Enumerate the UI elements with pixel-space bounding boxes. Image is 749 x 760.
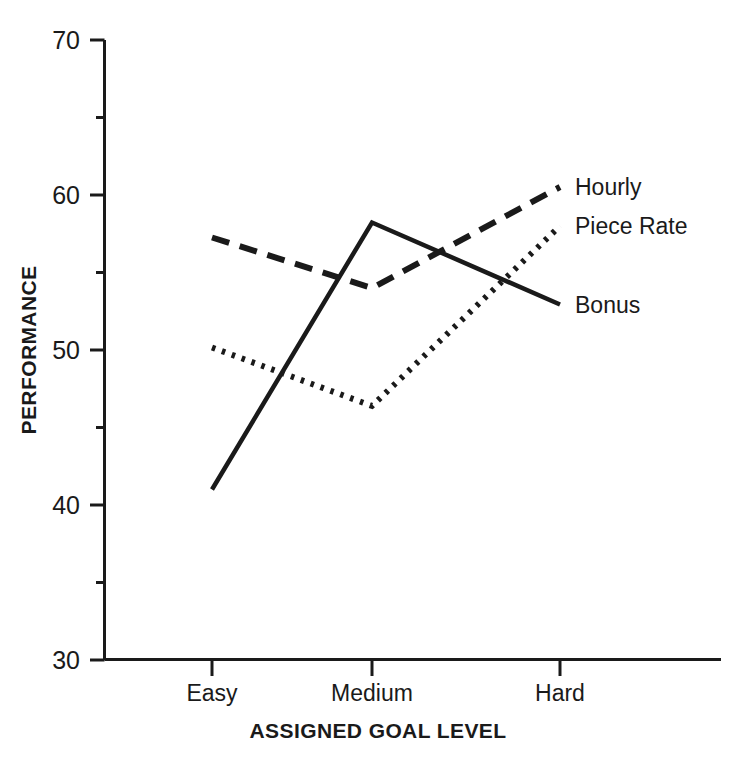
axis-group: [90, 40, 721, 676]
y-tick-label-70: 70: [52, 26, 80, 54]
y-tick-labels: 70 60 50 40 30: [52, 26, 80, 674]
x-tick-label-medium: Medium: [331, 680, 413, 706]
y-axis-title: PERFORMANCE: [17, 266, 40, 435]
x-tick-labels: Easy Medium Hard: [186, 680, 585, 706]
x-axis-title: ASSIGNED GOAL LEVEL: [250, 719, 507, 742]
series-line-bonus: [212, 223, 560, 490]
y-tick-label-60: 60: [52, 181, 80, 209]
y-tick-label-30: 30: [52, 646, 80, 674]
x-tick-label-hard: Hard: [535, 680, 585, 706]
performance-goal-level-chart: 70 60 50 40 30 Easy Medium Hard PERFORMA…: [0, 0, 749, 760]
x-tick-label-easy: Easy: [186, 680, 238, 706]
series-label-piece-rate: Piece Rate: [575, 213, 688, 239]
series-line-piece-rate: [212, 226, 560, 406]
y-tick-label-40: 40: [52, 491, 80, 519]
series-label-hourly: Hourly: [575, 174, 642, 200]
y-tick-label-50: 50: [52, 336, 80, 364]
series-label-bonus: Bonus: [575, 292, 640, 318]
chart-canvas: 70 60 50 40 30 Easy Medium Hard PERFORMA…: [0, 0, 749, 760]
